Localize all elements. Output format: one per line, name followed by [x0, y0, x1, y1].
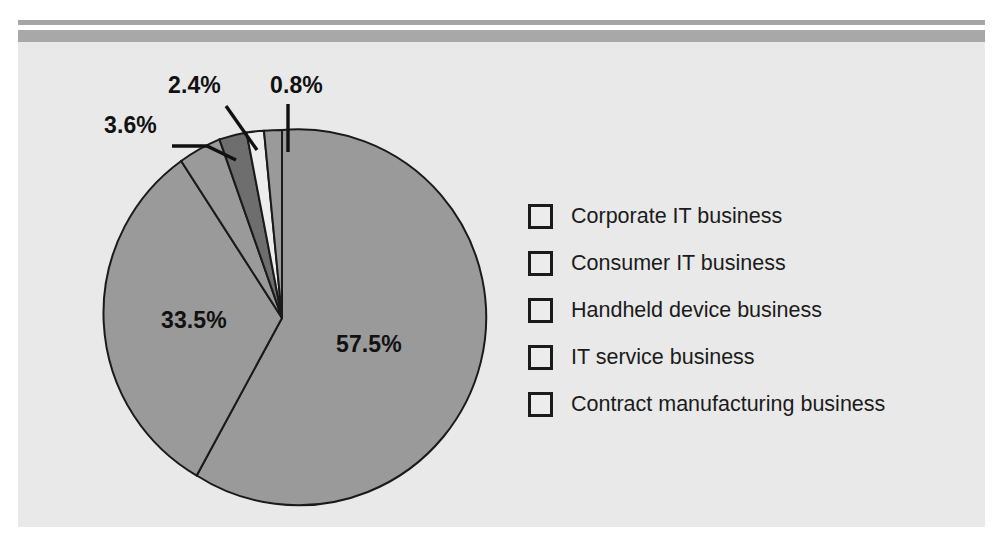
legend-item-consumer-it-business: Consumer IT business: [528, 240, 948, 287]
legend-item-contract-manufacturing-business: Contract manufacturing business: [528, 381, 948, 428]
legend-item-label: IT service business: [571, 347, 755, 369]
legend-swatch-icon: [528, 345, 553, 370]
chart-legend: Corporate IT business Consumer IT busine…: [528, 193, 948, 428]
pie-value-label-it-service-business: 2.4%: [168, 72, 221, 99]
legend-swatch-icon: [528, 204, 553, 229]
header-rule-thin: [18, 20, 985, 25]
legend-item-label: Contract manufacturing business: [571, 394, 885, 416]
legend-item-label: Corporate IT business: [571, 206, 782, 228]
pie-value-label-corporate-it-business: 57.5%: [336, 331, 402, 358]
legend-item-it-service-business: IT service business: [528, 334, 948, 381]
legend-item-handheld-device-business: Handheld device business: [528, 287, 948, 334]
pie-value-label-contract-manufacturing-business: 0.8%: [270, 72, 323, 99]
legend-item-label: Consumer IT business: [571, 253, 786, 275]
legend-swatch-icon: [528, 392, 553, 417]
legend-item-corporate-it-business: Corporate IT business: [528, 193, 948, 240]
pie-value-label-handheld-device-business: 3.6%: [104, 112, 157, 139]
legend-swatch-icon: [528, 298, 553, 323]
legend-item-label: Handheld device business: [571, 300, 822, 322]
legend-swatch-icon: [528, 251, 553, 276]
header-rule-thick: [18, 30, 985, 42]
pie-value-label-consumer-it-business: 33.5%: [161, 307, 227, 334]
